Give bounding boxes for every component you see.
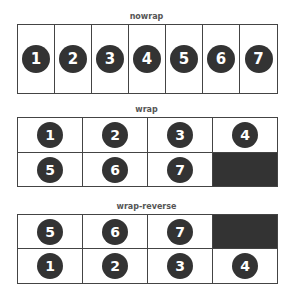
flex-item: 2 <box>83 249 148 283</box>
item-circle: 2 <box>59 45 87 73</box>
flex-item: 1 <box>18 25 55 93</box>
flex-item: 2 <box>83 118 148 153</box>
item-circle: 7 <box>167 219 193 245</box>
wrap-reverse-container: 5 6 7 1 2 3 4 <box>17 214 278 284</box>
wrap-container: 1 2 3 4 5 6 7 <box>17 117 278 187</box>
item-circle: 1 <box>37 122 63 148</box>
flex-item: 7 <box>148 153 213 186</box>
section-label-nowrap: nowrap <box>0 12 293 21</box>
section-label-wrap: wrap <box>0 105 293 114</box>
item-circle: 7 <box>167 157 193 183</box>
item-circle: 5 <box>37 157 63 183</box>
item-circle: 2 <box>102 253 128 279</box>
flex-item: 3 <box>148 118 213 153</box>
nowrap-container: 1 2 3 4 5 6 7 <box>17 24 278 94</box>
flex-item: 5 <box>166 25 203 93</box>
flex-item: 7 <box>240 25 277 93</box>
flex-item: 5 <box>18 153 83 186</box>
item-circle: 1 <box>22 45 50 73</box>
flex-item: 1 <box>18 249 83 283</box>
flex-item: 6 <box>83 153 148 186</box>
item-circle: 3 <box>167 253 193 279</box>
item-circle: 4 <box>133 45 161 73</box>
flex-item: 1 <box>18 118 83 153</box>
item-circle: 6 <box>102 157 128 183</box>
item-circle: 6 <box>207 45 235 73</box>
item-circle: 2 <box>102 122 128 148</box>
item-circle: 3 <box>96 45 124 73</box>
flex-item: 6 <box>203 25 240 93</box>
flex-item: 4 <box>213 249 277 283</box>
flex-item: 2 <box>55 25 92 93</box>
empty-space-filler <box>213 215 277 249</box>
flex-item: 6 <box>83 215 148 249</box>
flex-item: 3 <box>92 25 129 93</box>
item-circle: 1 <box>37 253 63 279</box>
section-label-wrap-reverse: wrap-reverse <box>0 202 293 211</box>
item-circle: 5 <box>37 219 63 245</box>
empty-space-filler <box>213 153 277 186</box>
flex-item: 4 <box>213 118 277 153</box>
item-circle: 4 <box>232 122 258 148</box>
flex-item: 5 <box>18 215 83 249</box>
flex-item: 4 <box>129 25 166 93</box>
item-circle: 6 <box>102 219 128 245</box>
flex-item: 3 <box>148 249 213 283</box>
item-circle: 5 <box>170 45 198 73</box>
item-circle: 7 <box>245 45 273 73</box>
item-circle: 3 <box>167 122 193 148</box>
item-circle: 4 <box>232 253 258 279</box>
flex-item: 7 <box>148 215 213 249</box>
